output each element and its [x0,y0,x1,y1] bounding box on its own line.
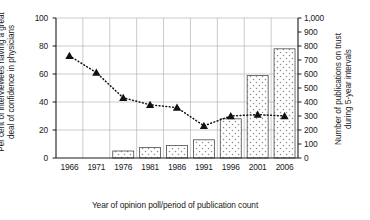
right-tick-label: 1,000 [304,13,336,23]
data-point-marker [200,122,208,129]
bar [220,119,241,158]
right-tick-label: 200 [304,125,336,135]
data-point-marker [65,52,73,59]
bar [193,140,214,158]
left-axis-label: Per cent of interviewees having a great … [0,2,11,162]
bar [167,145,188,158]
right-tick-label: 500 [304,83,336,93]
x-tick-label: 2006 [268,162,302,172]
left-tick-label: 40 [22,97,48,107]
right-tick-label: 0 [304,153,336,163]
left-tick-label: 0 [22,153,48,163]
right-axis-label: Number of publications on trust during 5… [334,14,348,164]
data-point-marker [92,69,100,76]
right-tick-label: 100 [304,139,336,149]
right-tick-label: 300 [304,111,336,121]
left-axis-label-line2: deal of confidence in physicians [7,2,17,162]
left-tick-label: 100 [22,13,48,23]
bar [274,49,295,158]
x-axis-label: Year of opinion poll/period of publicati… [40,200,310,210]
bar-series [113,49,295,158]
left-tick-label: 20 [22,125,48,135]
bar [113,151,134,158]
right-tick-label: 900 [304,27,336,37]
right-tick-label: 800 [304,41,336,51]
right-tick-label: 600 [304,69,336,79]
right-tick-label: 700 [304,55,336,65]
left-tick-label: 60 [22,69,48,79]
right-tick-label: 400 [304,97,336,107]
right-axis-label-line2: during 5-year intervals [344,14,354,164]
left-tick-label: 80 [22,41,48,51]
bar [140,148,161,159]
